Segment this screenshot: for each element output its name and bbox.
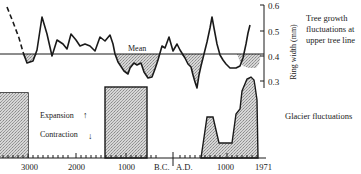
contraction-arrow-icon: ↓ [88,131,93,141]
y-tick-0.5: 0.5 [268,27,280,37]
y-axis: 0.6 0.5 0.4 0.3 [260,1,280,88]
x-tick-ad: A.D. [176,162,193,172]
tree-title-line2: fluctuations at [306,24,355,34]
x-tick-2000: 2000 [68,162,85,172]
tree-below-mean-shading [22,54,261,88]
expansion-label: Expansion [40,111,74,120]
y-tick-0.6: 0.6 [268,1,280,11]
mean-label: Mean [128,44,146,53]
x-tick-1000bc: 1000 [118,162,135,172]
contraction-label: Contraction [40,130,78,139]
glacier-blocks [0,77,258,158]
y-tick-0.4: 0.4 [268,52,280,62]
x-tick-3000: 3000 [21,162,38,172]
glacier-title: Glacier fluctuations [285,111,352,121]
y-tick-0.3: 0.3 [268,77,280,87]
y-axis-title: Ring width (mm) [289,24,298,80]
expansion-arrow-icon: ↑ [83,110,88,120]
tree-title-line3: upper tree line [306,35,355,45]
x-tick-bc: B.C. [154,162,170,172]
x-tick-1971: 1971 [255,162,272,172]
x-tick-1000ad: 1000 [217,162,234,172]
tree-title-line1: Tree growth [306,13,348,23]
chart-canvas: Mean 0.6 0.5 0.4 0.3 Ring width (mm) Tre… [0,0,361,174]
tree-growth-dashed-segment [7,7,23,52]
